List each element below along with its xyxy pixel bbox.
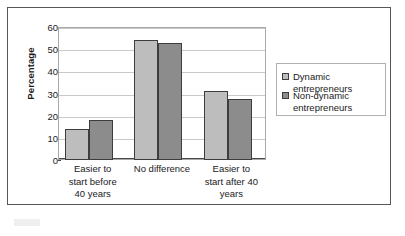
x-axis-label: Easier tostart before40 years: [58, 163, 127, 201]
y-tick-label: 10: [24, 132, 58, 143]
bars-layer: [58, 27, 266, 160]
legend-swatch-dynamic: [282, 73, 289, 80]
figure-frame: Percentage 0102030405060 Easier tostart …: [7, 7, 391, 205]
bar: [204, 91, 228, 160]
y-tick-label: 40: [24, 66, 58, 77]
y-tick-label: 30: [24, 88, 58, 99]
bar-chart: Percentage 0102030405060 Easier tostart …: [8, 8, 390, 204]
y-axis-ticks: 0102030405060: [16, 27, 58, 160]
legend-entry: Non-dynamic entrepreneurs: [282, 90, 352, 113]
legend-swatch-non-dynamic: [282, 92, 289, 99]
bar-group: [58, 27, 127, 160]
bar: [65, 129, 89, 160]
bar-group: [127, 27, 196, 160]
chart-legend: Dynamic entrepreneursNon-dynamic entrepr…: [276, 63, 386, 116]
y-tick-label: 60: [24, 22, 58, 33]
bar: [89, 120, 113, 160]
bar-group: [197, 27, 266, 160]
y-tick-label: 20: [24, 110, 58, 121]
y-tick-label: 0: [24, 155, 58, 166]
bar: [228, 99, 252, 160]
scan-artifact: [14, 219, 40, 226]
x-axis-labels: Easier tostart before40 yearsNo differen…: [58, 163, 266, 209]
x-axis-label: Easier tostart after 40years: [197, 163, 266, 201]
y-tick-mark: [58, 160, 61, 161]
y-tick-label: 50: [24, 44, 58, 55]
bar: [134, 40, 158, 160]
x-axis-label: No difference: [127, 163, 196, 176]
legend-label: Non-dynamic entrepreneurs: [293, 90, 352, 113]
bar: [158, 43, 182, 160]
